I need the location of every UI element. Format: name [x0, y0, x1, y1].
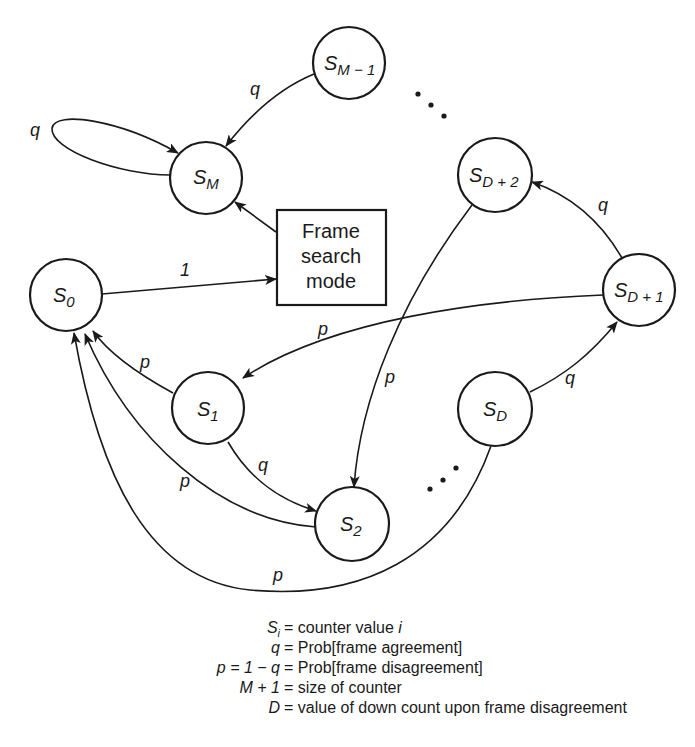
edge-sm-self-loop: [52, 119, 178, 175]
edge-label-p-sd-s0: p: [272, 565, 283, 585]
ellipsis-top: [415, 91, 446, 118]
edge-label-q-sd-sd1: q: [565, 368, 575, 388]
svg-text:Frame: Frame: [302, 220, 360, 242]
edge-label-p-s2-s0: p: [179, 471, 190, 491]
edge-fsm-to-sm: [235, 202, 276, 232]
ellipsis-bottom: [427, 465, 458, 491]
edge-label-q-self: q: [30, 120, 40, 140]
node-s-0: S0: [30, 259, 102, 331]
edge-label-p-s1-s0: p: [139, 352, 150, 372]
node-s-2: S2: [315, 487, 389, 561]
edge-label-p-sd1-s1: p: [317, 319, 328, 339]
node-s-1: S1: [172, 372, 244, 444]
edge-label-q-s1-s2: q: [258, 455, 268, 475]
node-s-m: SM: [170, 142, 242, 214]
node-s-d-plus-1: SD + 1: [603, 254, 675, 326]
edge-s0-to-fsm: [102, 279, 276, 294]
node-s-d: SD: [458, 372, 532, 446]
edge-sd1-to-s1: [243, 295, 603, 378]
state-diagram: SM − 1 SM SD + 2 S0 SD + 1 S1 SD S2 Fram…: [0, 0, 695, 620]
edge-label-one: 1: [180, 260, 190, 280]
svg-text:search: search: [301, 245, 361, 267]
edge-sd1-to-sd2: [532, 182, 622, 258]
svg-text:mode: mode: [306, 270, 356, 292]
edge-s1-to-s0: [93, 331, 173, 393]
edge-sm1-to-sm: [226, 74, 314, 146]
frame-search-mode-box: Frame search mode: [277, 210, 386, 305]
edge-label-q-sm1-sm: q: [250, 79, 260, 99]
edge-s1-to-s2: [228, 442, 316, 511]
edge-label-p-sd2-s2: p: [384, 367, 395, 387]
node-s-d-plus-2: SD + 2: [458, 138, 532, 212]
node-s-m-minus-1: SM − 1: [313, 27, 385, 99]
edge-label-q-sd1-sd2: q: [598, 195, 608, 215]
